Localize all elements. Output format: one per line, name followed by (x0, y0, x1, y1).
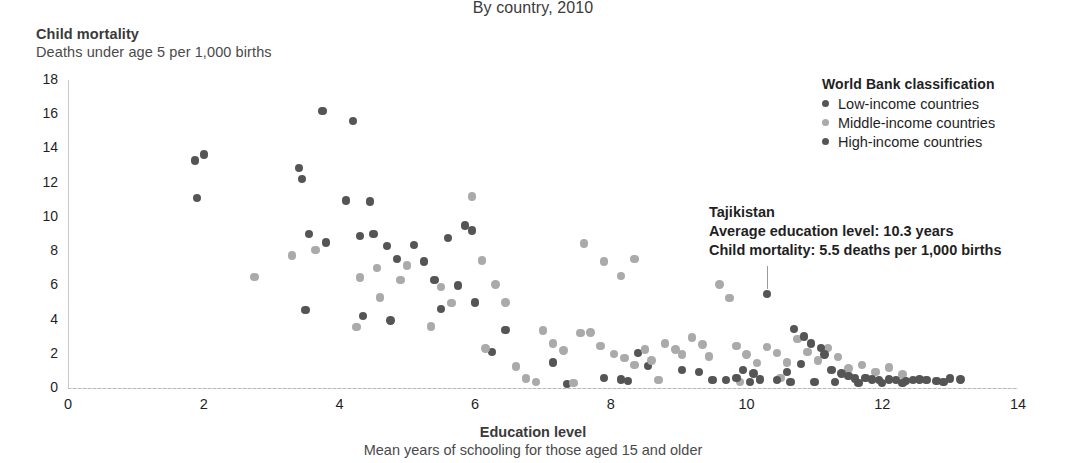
scatter-point (288, 251, 296, 259)
x-axis-subtitle: Mean years of schooling for those aged 1… (0, 442, 1066, 458)
y-tick-label: 0 (18, 379, 58, 395)
scatter-point (420, 257, 428, 265)
scatter-point (200, 150, 208, 158)
scatter-point (539, 326, 547, 334)
scatter-point (600, 374, 608, 382)
scatter-point (885, 363, 893, 371)
scatter-point (305, 230, 313, 238)
scatter-point (746, 378, 754, 386)
legend-label: High-income countries (838, 134, 982, 150)
scatter-point (191, 156, 199, 164)
scatter-point (359, 312, 367, 320)
scatter-point (763, 343, 771, 351)
x-axis-line (68, 388, 1018, 389)
scatter-point (620, 354, 628, 362)
scatter-point (797, 360, 805, 368)
scatter-point (410, 241, 418, 249)
scatter-point (695, 368, 703, 376)
scatter-point (753, 359, 761, 367)
x-tick-label: 8 (591, 396, 631, 412)
scatter-point (403, 261, 411, 269)
y-tick-label: 14 (18, 139, 58, 155)
legend-title: World Bank classification (822, 76, 1062, 92)
scatter-point (580, 239, 588, 247)
scatter-point (739, 366, 747, 374)
scatter-point (922, 376, 930, 384)
scatter-point (661, 339, 669, 347)
scatter-point (250, 273, 258, 281)
scatter-point (193, 194, 201, 202)
scatter-point (939, 378, 947, 386)
scatter-point (898, 379, 906, 387)
scatter-point (610, 350, 618, 358)
legend-item[interactable]: Low-income countries (822, 94, 1062, 113)
legend: World Bank classification Low-income cou… (822, 76, 1062, 151)
scatter-point (471, 298, 479, 306)
scatter-point (386, 316, 394, 324)
x-axis-title: Education level (0, 424, 1066, 440)
x-tick-label: 4 (319, 396, 359, 412)
annotation-country: Tajikistan (709, 203, 1002, 222)
scatter-point (356, 273, 364, 281)
scatter-point (491, 280, 499, 288)
chart-canvas: By country, 2010 Child mortality Deaths … (0, 0, 1066, 463)
scatter-point (596, 342, 604, 350)
scatter-point (722, 376, 730, 384)
scatter-point (732, 374, 740, 382)
scatter-point (641, 345, 649, 353)
y-axis-line (68, 80, 69, 388)
chart-subtitle: By country, 2010 (0, 0, 1066, 17)
y-axis-subtitle: Deaths under age 5 per 1,000 births (36, 44, 272, 60)
scatter-point (586, 328, 594, 336)
scatter-point (810, 378, 818, 386)
scatter-point (532, 378, 540, 386)
scatter-point (763, 290, 771, 298)
scatter-point (705, 352, 713, 360)
legend-label: Low-income countries (838, 96, 979, 112)
y-tick-label: 10 (18, 208, 58, 224)
scatter-point (396, 276, 404, 284)
legend-dot-icon (822, 119, 829, 126)
scatter-point (522, 374, 530, 382)
scatter-point (501, 326, 509, 334)
scatter-point (501, 298, 509, 306)
y-tick-label: 8 (18, 242, 58, 258)
scatter-point (437, 283, 445, 291)
legend-dot-icon (822, 138, 829, 145)
scatter-point (820, 350, 828, 358)
scatter-point (630, 361, 638, 369)
legend-item[interactable]: High-income countries (822, 132, 1062, 151)
scatter-point (630, 255, 638, 263)
scatter-point (352, 323, 360, 331)
scatter-point (854, 379, 862, 387)
scatter-point (688, 333, 696, 341)
scatter-point (773, 349, 781, 357)
legend-label: Middle-income countries (838, 115, 995, 131)
scatter-point (559, 346, 567, 354)
scatter-point (447, 299, 455, 307)
legend-item[interactable]: Middle-income countries (822, 113, 1062, 132)
scatter-point (356, 232, 364, 240)
scatter-point (617, 272, 625, 280)
scatter-point (318, 107, 326, 115)
scatter-point (383, 242, 391, 250)
scatter-point (468, 226, 476, 234)
scatter-point (549, 339, 557, 347)
annotation-leader-line (767, 266, 768, 289)
scatter-point (624, 377, 632, 385)
scatter-point (956, 375, 964, 383)
scatter-point (732, 342, 740, 350)
scatter-point (678, 366, 686, 374)
scatter-point (298, 175, 306, 183)
scatter-point (295, 164, 303, 172)
scatter-point (373, 264, 381, 272)
scatter-point (803, 348, 811, 356)
scatter-point (468, 192, 476, 200)
x-tick-label: 12 (862, 396, 902, 412)
x-tick-label: 10 (727, 396, 767, 412)
scatter-point (807, 339, 815, 347)
scatter-point (878, 379, 886, 387)
scatter-point (454, 281, 462, 289)
x-tick-label: 6 (455, 396, 495, 412)
scatter-point (783, 358, 791, 366)
